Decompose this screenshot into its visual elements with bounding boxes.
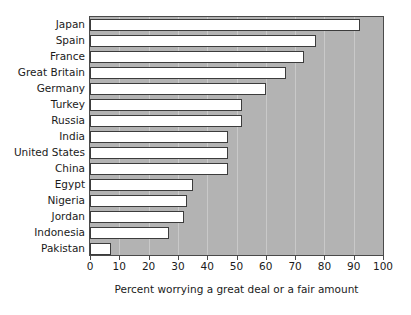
bar-row [90, 97, 383, 113]
bar [90, 115, 242, 127]
axis-tick-label: 60 [259, 260, 272, 272]
axis-tick-label: 10 [113, 260, 126, 272]
axis-tick-label: 90 [347, 260, 360, 272]
bar-row [90, 65, 383, 81]
category-label: China [55, 160, 85, 176]
bar [90, 131, 228, 143]
axis-tick-label: 50 [230, 260, 243, 272]
bar-row [90, 129, 383, 145]
axis-tick-label: 0 [87, 260, 94, 272]
axis-tick-label: 80 [318, 260, 331, 272]
bar [90, 195, 187, 207]
bar-row [90, 81, 383, 97]
bar [90, 51, 304, 63]
bar-row [90, 17, 383, 33]
bar [90, 67, 286, 79]
axis-tick-label: 30 [171, 260, 184, 272]
bar-row [90, 33, 383, 49]
axis-tick-label: 40 [201, 260, 214, 272]
axis-tick-label: 70 [288, 260, 301, 272]
category-label: India [59, 128, 85, 144]
bar-row [90, 241, 383, 257]
bar [90, 147, 228, 159]
bar-row [90, 225, 383, 241]
category-axis-labels: JapanSpainFranceGreat BritainGermanyTurk… [0, 16, 89, 256]
bar-row [90, 177, 383, 193]
bar [90, 243, 111, 255]
plot-area [89, 16, 384, 256]
bar-series [90, 17, 383, 255]
category-label: United States [14, 144, 85, 160]
category-label: Turkey [51, 96, 85, 112]
category-label: Jordan [52, 208, 85, 224]
category-label: Indonesia [34, 224, 85, 240]
category-label: Pakistan [41, 240, 85, 256]
bar [90, 99, 242, 111]
value-axis: 0102030405060708090100 [89, 256, 384, 276]
bar-row [90, 193, 383, 209]
category-label: Great Britain [18, 64, 85, 80]
axis-tick-label: 20 [142, 260, 155, 272]
category-label: France [50, 48, 85, 64]
category-label: Egypt [55, 176, 85, 192]
bar [90, 35, 316, 47]
bar-row [90, 209, 383, 225]
bar-chart: JapanSpainFranceGreat BritainGermanyTurk… [0, 0, 411, 315]
category-label: Japan [56, 16, 85, 32]
x-axis-title: Percent worrying a great deal or a fair … [89, 283, 384, 295]
bar-row [90, 49, 383, 65]
bar-row [90, 145, 383, 161]
bar-row [90, 113, 383, 129]
bar-row [90, 161, 383, 177]
bar [90, 83, 266, 95]
category-label: Germany [37, 80, 85, 96]
bar [90, 211, 184, 223]
category-label: Nigeria [47, 192, 85, 208]
axis-tick-label: 100 [373, 260, 393, 272]
category-label: Russia [51, 112, 85, 128]
bar [90, 179, 193, 191]
bar [90, 19, 360, 31]
bar [90, 163, 228, 175]
category-label: Spain [56, 32, 85, 48]
bar [90, 227, 169, 239]
